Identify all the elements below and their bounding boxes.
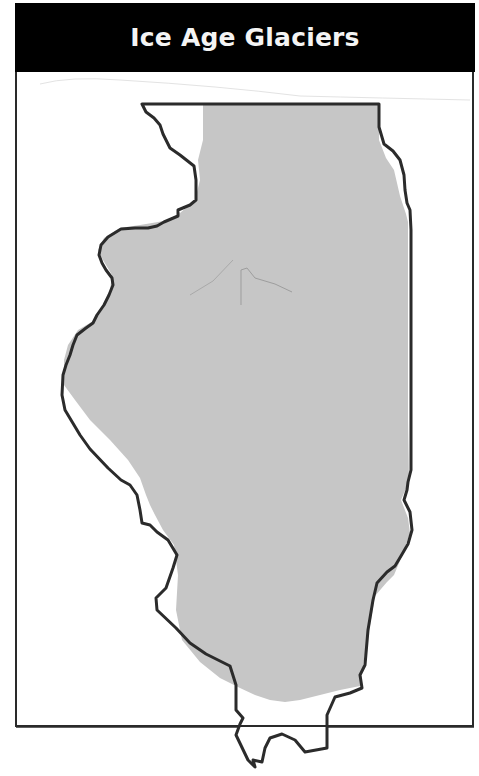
glacier-area [64, 104, 410, 702]
illinois-map [0, 0, 479, 776]
paper-crease [40, 79, 470, 100]
